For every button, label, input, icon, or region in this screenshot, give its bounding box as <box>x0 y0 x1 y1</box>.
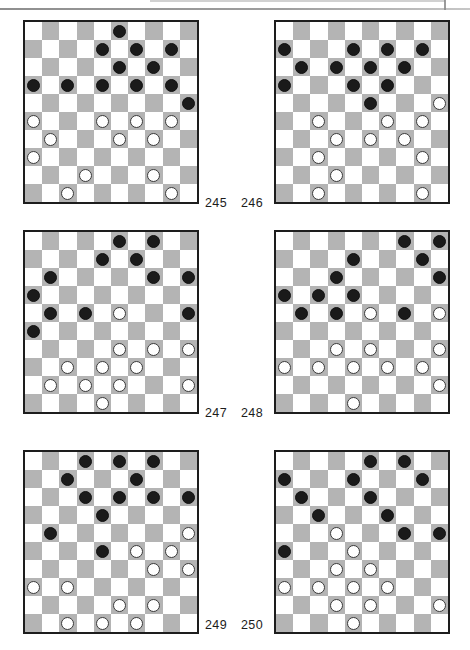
white-piece[interactable] <box>347 397 360 410</box>
square-r3-c6[interactable] <box>111 488 128 506</box>
square-r3-c5[interactable] <box>94 58 111 76</box>
white-piece[interactable] <box>330 343 343 356</box>
square-r2-c4[interactable] <box>77 250 94 268</box>
square-r10-c5[interactable] <box>345 394 362 412</box>
black-piece[interactable] <box>416 253 429 266</box>
square-r8-c5[interactable] <box>345 578 362 596</box>
square-r4-c10[interactable] <box>180 76 197 94</box>
square-r4-c6[interactable] <box>111 286 128 304</box>
black-piece[interactable] <box>27 325 40 338</box>
square-r6-c6[interactable] <box>362 112 379 130</box>
square-r3-c5[interactable] <box>94 268 111 286</box>
square-r9-c4[interactable] <box>77 376 94 394</box>
white-piece[interactable] <box>44 133 57 146</box>
square-r6-c5[interactable] <box>345 322 362 340</box>
square-r10-c2[interactable] <box>42 184 59 202</box>
white-piece[interactable] <box>113 307 126 320</box>
square-r2-c4[interactable] <box>328 40 345 58</box>
square-r4-c2[interactable] <box>293 286 310 304</box>
square-r3-c8[interactable] <box>396 488 413 506</box>
square-r8-c6[interactable] <box>362 148 379 166</box>
square-r2-c10[interactable] <box>180 470 197 488</box>
black-piece[interactable] <box>113 235 126 248</box>
square-r10-c4[interactable] <box>328 184 345 202</box>
square-r8-c10[interactable] <box>431 358 448 376</box>
square-r2-c5[interactable] <box>94 40 111 58</box>
square-r1-c1[interactable] <box>25 232 42 250</box>
square-r5-c6[interactable] <box>111 524 128 542</box>
square-r1-c9[interactable] <box>163 22 180 40</box>
black-piece[interactable] <box>416 43 429 56</box>
square-r5-c2[interactable] <box>42 304 59 322</box>
square-r4-c3[interactable] <box>59 76 76 94</box>
square-r7-c1[interactable] <box>25 340 42 358</box>
square-r10-c1[interactable] <box>276 614 293 632</box>
white-piece[interactable] <box>61 581 74 594</box>
white-piece[interactable] <box>79 169 92 182</box>
square-r3-c8[interactable] <box>145 488 162 506</box>
square-r5-c9[interactable] <box>414 304 431 322</box>
square-r3-c4[interactable] <box>77 268 94 286</box>
square-r6-c8[interactable] <box>396 542 413 560</box>
square-r9-c7[interactable] <box>379 166 396 184</box>
white-piece[interactable] <box>433 307 446 320</box>
square-r7-c7[interactable] <box>379 560 396 578</box>
square-r3-c6[interactable] <box>111 58 128 76</box>
square-r10-c7[interactable] <box>379 614 396 632</box>
square-r1-c7[interactable] <box>379 22 396 40</box>
square-r5-c4[interactable] <box>77 304 94 322</box>
square-r3-c10[interactable] <box>431 268 448 286</box>
square-r1-c3[interactable] <box>310 22 327 40</box>
square-r9-c4[interactable] <box>77 166 94 184</box>
square-r4-c2[interactable] <box>293 76 310 94</box>
square-r2-c3[interactable] <box>310 40 327 58</box>
square-r6-c2[interactable] <box>42 542 59 560</box>
square-r2-c1[interactable] <box>276 470 293 488</box>
square-r3-c6[interactable] <box>111 268 128 286</box>
square-r9-c4[interactable] <box>328 376 345 394</box>
square-r7-c5[interactable] <box>94 340 111 358</box>
square-r3-c2[interactable] <box>42 488 59 506</box>
square-r5-c7[interactable] <box>128 304 145 322</box>
square-r6-c1[interactable] <box>25 542 42 560</box>
square-r5-c1[interactable] <box>276 304 293 322</box>
square-r2-c3[interactable] <box>59 250 76 268</box>
square-r4-c7[interactable] <box>379 76 396 94</box>
square-r9-c5[interactable] <box>94 596 111 614</box>
square-r8-c4[interactable] <box>328 358 345 376</box>
white-piece[interactable] <box>147 599 160 612</box>
square-r8-c2[interactable] <box>293 578 310 596</box>
square-r5-c10[interactable] <box>180 304 197 322</box>
square-r10-c10[interactable] <box>180 184 197 202</box>
square-r9-c1[interactable] <box>276 166 293 184</box>
square-r10-c1[interactable] <box>25 614 42 632</box>
white-piece[interactable] <box>182 343 195 356</box>
square-r7-c8[interactable] <box>145 340 162 358</box>
square-r6-c2[interactable] <box>293 322 310 340</box>
black-piece[interactable] <box>398 455 411 468</box>
white-piece[interactable] <box>381 581 394 594</box>
square-r5-c4[interactable] <box>328 94 345 112</box>
square-r3-c10[interactable] <box>431 58 448 76</box>
square-r1-c4[interactable] <box>328 452 345 470</box>
square-r10-c5[interactable] <box>345 184 362 202</box>
square-r9-c3[interactable] <box>310 596 327 614</box>
black-piece[interactable] <box>130 473 143 486</box>
square-r1-c10[interactable] <box>431 452 448 470</box>
square-r8-c2[interactable] <box>293 358 310 376</box>
square-r3-c8[interactable] <box>145 58 162 76</box>
square-r8-c10[interactable] <box>180 578 197 596</box>
square-r5-c3[interactable] <box>59 94 76 112</box>
square-r6-c8[interactable] <box>145 112 162 130</box>
square-r8-c10[interactable] <box>431 578 448 596</box>
square-r6-c7[interactable] <box>379 322 396 340</box>
black-piece[interactable] <box>96 43 109 56</box>
black-piece[interactable] <box>113 455 126 468</box>
square-r9-c7[interactable] <box>128 596 145 614</box>
square-r3-c1[interactable] <box>25 268 42 286</box>
square-r5-c1[interactable] <box>25 94 42 112</box>
white-piece[interactable] <box>165 545 178 558</box>
white-piece[interactable] <box>61 617 74 630</box>
square-r8-c10[interactable] <box>431 148 448 166</box>
square-r7-c6[interactable] <box>111 130 128 148</box>
